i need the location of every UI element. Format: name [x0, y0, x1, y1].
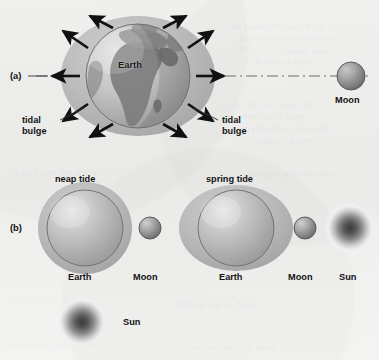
panel-b-key: (b) [10, 222, 22, 233]
tidal-bulge-right-line1: tidal [222, 115, 247, 126]
tidal-bulge-label-left: tidal bulge [22, 115, 47, 137]
panel-a-earth-label: Earth [118, 59, 142, 70]
tidal-bulge-right-line2: bulge [222, 126, 247, 137]
figure-canvas: the ocean tides rise and fall gravitatio… [0, 0, 379, 360]
neap-moon-label: Moon [133, 272, 158, 283]
panel-a-key: (a) [10, 70, 21, 81]
spring-sun-label: Sun [339, 272, 356, 283]
label-layer: (a) Earth Moon tidal bulge tidal bulge (… [0, 0, 379, 360]
spring-earth-label: Earth [219, 272, 243, 283]
neap-sun-label: Sun [123, 317, 140, 328]
tidal-bulge-left-line1: tidal [22, 115, 47, 126]
spring-tide-title: spring tide [206, 174, 253, 185]
tidal-bulge-label-right: tidal bulge [222, 115, 247, 137]
spring-moon-label: Moon [288, 272, 313, 283]
neap-tide-title: neap tide [55, 174, 95, 185]
panel-a-moon-label: Moon [335, 95, 360, 106]
tidal-bulge-left-line2: bulge [22, 126, 47, 137]
neap-earth-label: Earth [68, 272, 92, 283]
